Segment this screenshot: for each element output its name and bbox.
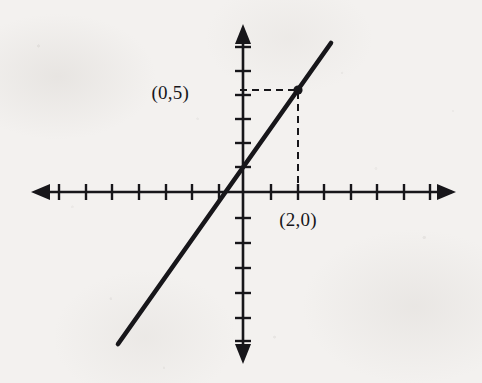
y-axis-down-arrowhead [235, 344, 251, 364]
x-axis-right-arrowhead [437, 184, 456, 200]
marked-point-dot [293, 85, 302, 94]
label-y-intercept: (0,5) [103, 83, 189, 102]
x-axis-left-arrowhead [31, 184, 50, 200]
y-axis-up-arrowhead [235, 24, 251, 44]
coordinate-plane-canvas [0, 0, 482, 383]
y-axis [235, 24, 251, 364]
coordinate-plane-figure: (0,5) (2,0) [0, 0, 482, 383]
label-x-intercept: (2,0) [258, 210, 338, 229]
